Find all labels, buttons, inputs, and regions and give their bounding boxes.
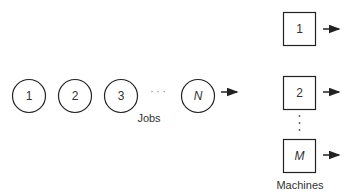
- job-n-label: N: [194, 89, 203, 103]
- machine-1-label: 1: [296, 22, 303, 36]
- job-3-label: 3: [118, 89, 125, 103]
- job-n: N: [182, 80, 215, 113]
- jobs-ellipsis: · · ·: [150, 86, 166, 97]
- job-1-label: 1: [26, 89, 33, 103]
- machine-1: 1: [284, 13, 340, 46]
- machine-2-label: 2: [296, 86, 303, 100]
- machines-label: Machines: [276, 179, 324, 191]
- machine-m-label: M: [295, 149, 305, 163]
- jobs-label: Jobs: [137, 112, 161, 124]
- machine-m: M: [284, 140, 340, 173]
- diagram-canvas: 1 2 3 · · · N Jobs 1 2: [0, 0, 359, 196]
- job-2: 2: [59, 80, 92, 113]
- machine-2: 2: [284, 77, 340, 110]
- job-1: 1: [13, 80, 46, 113]
- job-3: 3: [105, 80, 138, 113]
- job-2-label: 2: [72, 89, 79, 103]
- job-machine-diagram: 1 2 3 · · · N Jobs 1 2: [0, 0, 359, 196]
- machines-vertical-ellipsis: [299, 115, 301, 131]
